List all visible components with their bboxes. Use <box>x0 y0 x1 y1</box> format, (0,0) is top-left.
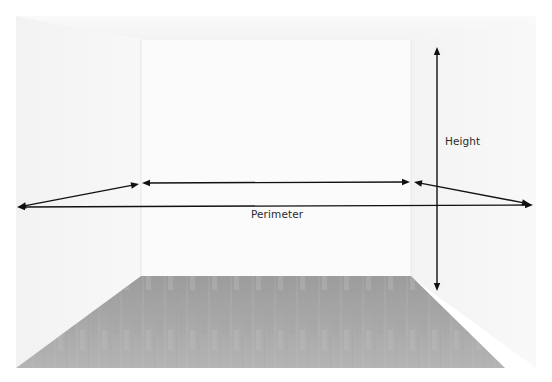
height-label: Height <box>445 135 480 147</box>
back-wall <box>141 40 411 277</box>
room-illustration <box>0 0 552 382</box>
perimeter-back-wall-arrow <box>147 182 405 183</box>
perimeter-label: Perimeter <box>251 208 303 220</box>
